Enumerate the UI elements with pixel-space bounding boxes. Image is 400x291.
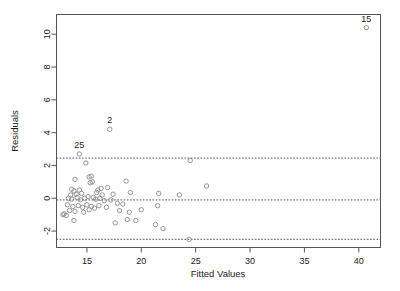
data-point [117, 208, 121, 212]
point-label-2: 2 [107, 115, 112, 125]
data-point [105, 185, 109, 189]
data-point [155, 203, 159, 207]
y-tick-label: 6 [42, 97, 52, 102]
x-tick-label: 40 [354, 256, 364, 266]
data-point [113, 221, 117, 225]
y-axis-ticks-group: -20246810 [42, 29, 57, 235]
data-point [364, 25, 368, 29]
data-point [87, 208, 91, 212]
chart-canvas: 152025303540 -20246810 15225 Fitted Valu… [0, 0, 400, 291]
data-point [128, 190, 132, 194]
data-point [76, 203, 80, 207]
data-point [108, 127, 112, 131]
data-point [85, 203, 89, 207]
data-point [188, 158, 192, 162]
residuals-vs-fitted-chart: 152025303540 -20246810 15225 Fitted Valu… [0, 0, 400, 291]
plot-frame [57, 15, 381, 248]
data-point [71, 204, 75, 208]
y-axis-title: Residuals [9, 110, 20, 152]
point-labels-group: 15225 [74, 14, 371, 150]
y-tick-label: 4 [42, 130, 52, 135]
y-tick-label: -2 [42, 227, 52, 235]
x-axis-title: Fitted Values [191, 268, 246, 279]
point-label-25: 25 [74, 140, 84, 150]
data-point [111, 192, 115, 196]
data-point [161, 226, 165, 230]
data-point [121, 202, 125, 206]
data-point [139, 208, 143, 212]
data-point [157, 191, 161, 195]
x-tick-label: 35 [299, 256, 309, 266]
data-point [115, 201, 119, 205]
data-point [134, 218, 138, 222]
data-point [124, 179, 128, 183]
data-point [98, 196, 102, 200]
x-tick-label: 30 [245, 256, 255, 266]
data-point [73, 177, 77, 181]
data-point [80, 205, 84, 209]
data-point [204, 184, 208, 188]
y-tick-label: 10 [42, 29, 52, 39]
data-point [125, 217, 129, 221]
data-point [153, 222, 157, 226]
data-point [79, 191, 83, 195]
y-tick-label: 0 [42, 196, 52, 201]
x-tick-label: 25 [191, 256, 201, 266]
x-axis-ticks-group: 152025303540 [82, 248, 364, 266]
data-point [67, 208, 71, 212]
point-label-15: 15 [361, 14, 371, 24]
data-point [81, 210, 85, 214]
data-point [102, 199, 106, 203]
y-tick-label: 2 [42, 163, 52, 168]
data-point [84, 161, 88, 165]
data-point [73, 209, 77, 213]
data-point [104, 205, 108, 209]
y-tick-label: 8 [42, 64, 52, 69]
x-tick-label: 20 [136, 256, 146, 266]
data-point [72, 218, 76, 222]
data-point [97, 203, 101, 207]
x-tick-label: 15 [82, 256, 92, 266]
data-point [127, 210, 131, 214]
data-points-group [61, 25, 369, 241]
data-point [77, 152, 81, 156]
data-point [65, 203, 69, 207]
data-point [177, 193, 181, 197]
